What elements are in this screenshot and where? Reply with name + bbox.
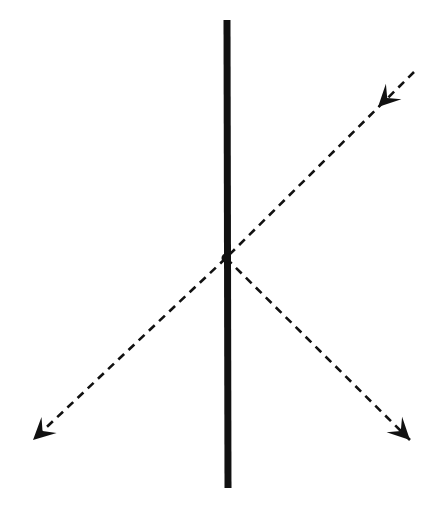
intersection-point	[222, 254, 231, 263]
reflected-ray	[226, 258, 410, 440]
ray-diagram	[0, 0, 431, 517]
rays-group	[33, 72, 414, 440]
transmitted-ray	[33, 258, 226, 440]
transmitted-ray-arrowhead-icon	[33, 417, 57, 440]
